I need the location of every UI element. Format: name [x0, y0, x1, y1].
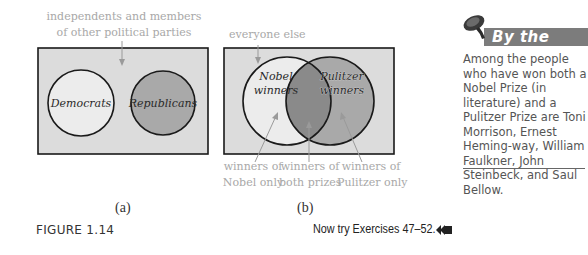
figure-label: FIGURE 1.14 — [36, 223, 114, 237]
label-nobel-line2: winners — [254, 84, 299, 97]
by-the-way-banner: By the Way — [484, 28, 588, 46]
bottom-label-nobel-only-line1: winners of — [222, 159, 284, 175]
universe-note-b: everyone else — [229, 27, 306, 43]
label-democrats: Democrats — [50, 97, 112, 110]
caption-b: (b) — [297, 200, 313, 216]
bottom-label-pulitzer-only: winners of Pulitzer only — [337, 159, 405, 191]
bottom-label-pulitzer-only-line2: Pulitzer only — [337, 175, 405, 191]
bottom-label-nobel-only: winners of Nobel only — [222, 159, 284, 191]
by-the-way-body: Among the people who have won both a Nob… — [463, 52, 587, 197]
sidebar-divider — [463, 168, 585, 169]
bottom-label-nobel-only-line2: Nobel only — [222, 175, 284, 191]
pushpin-icon — [459, 12, 493, 42]
exercise-prompt[interactable]: Now try Exercises 47–52. — [313, 222, 449, 236]
bottom-label-both-line2: both prizes — [279, 175, 341, 191]
double-left-arrow-icon — [436, 225, 452, 235]
bottom-label-both: winners of both prizes — [279, 159, 341, 191]
label-republicans: Republicans — [128, 97, 198, 110]
label-pulitzer-line2: winners — [320, 84, 365, 97]
bottom-label-pulitzer-only-line1: winners of — [337, 159, 405, 175]
label-pulitzer-line1: Pulitzer — [319, 70, 364, 83]
label-nobel-line1: Nobel — [258, 70, 293, 83]
exercise-prompt-text: Now try Exercises 47–52. — [313, 222, 435, 236]
bottom-label-both-line1: winners of — [279, 159, 341, 175]
caption-a: (a) — [115, 200, 131, 216]
